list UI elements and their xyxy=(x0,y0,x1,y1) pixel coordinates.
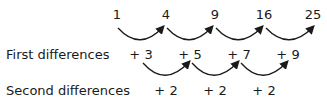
first-difference: + 5 xyxy=(178,48,201,61)
first-difference: + 7 xyxy=(227,48,250,61)
first-difference: + 3 xyxy=(129,48,152,61)
arc-icon xyxy=(143,62,189,75)
arc-icon xyxy=(216,27,262,40)
sequence-term: 25 xyxy=(305,8,322,21)
arc-icon xyxy=(118,27,163,40)
second-difference: + 2 xyxy=(252,84,275,97)
arc-icon xyxy=(266,27,313,40)
second-difference: + 2 xyxy=(203,84,226,97)
second-difference: + 2 xyxy=(154,84,177,97)
sequence-term: 1 xyxy=(113,8,121,21)
arc-icon xyxy=(167,27,212,40)
first-differences-label: First differences xyxy=(6,48,110,61)
arc-icon xyxy=(192,62,238,75)
first-difference: + 9 xyxy=(276,48,299,61)
arc-icon xyxy=(241,62,287,75)
sequence-term: 4 xyxy=(162,8,170,21)
second-differences-label: Second differences xyxy=(6,84,130,97)
sequence-term: 9 xyxy=(211,8,219,21)
sequence-term: 16 xyxy=(256,8,273,21)
